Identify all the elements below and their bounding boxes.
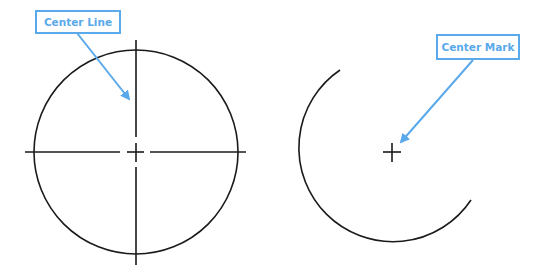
full-circle-figure: [25, 40, 246, 265]
center-mark-callout: Center Mark: [436, 34, 520, 60]
center-mark-cross: [383, 143, 401, 162]
center-line-callout: Center Line: [35, 10, 121, 34]
center-mark-label: Center Mark: [442, 41, 515, 53]
arc-figure: [299, 70, 471, 242]
center-mark-arrow: [401, 60, 473, 142]
arc-outline: [299, 70, 471, 242]
center-line-arrow: [77, 33, 129, 99]
center-line-label: Center Line: [44, 16, 112, 28]
